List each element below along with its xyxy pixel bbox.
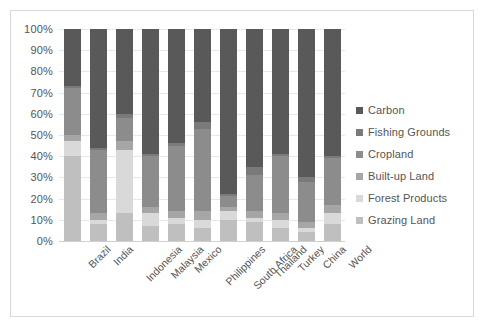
legend-item-label: Grazing Land (368, 214, 435, 226)
bar-segment (246, 175, 263, 211)
bar-segment (246, 222, 263, 241)
legend-swatch-icon (356, 107, 363, 114)
bar-brazil[interactable] (64, 29, 81, 241)
bar-segment (246, 29, 263, 167)
y-axis: 100%90%80%70%60%50%40%30%20%10%0% (11, 29, 57, 241)
legend-item-label: Fishing Grounds (368, 126, 450, 138)
y-axis-tick-label: 0% (37, 235, 53, 247)
bar-segment (324, 224, 341, 241)
bar-thailand[interactable] (246, 29, 263, 241)
bar-segment (142, 226, 159, 241)
bar-segment (142, 156, 159, 207)
bar-segment (116, 150, 133, 214)
bar-philippines[interactable] (194, 29, 211, 241)
bar-segment (64, 141, 81, 156)
bar-segment (272, 156, 289, 213)
y-axis-tick-label: 90% (30, 44, 53, 56)
legend-item-label: Cropland (368, 148, 413, 160)
bar-world[interactable] (324, 29, 341, 241)
bar-segment (168, 146, 185, 212)
bar-segment (64, 29, 81, 86)
bar-segment (246, 167, 263, 175)
bar-south-africa[interactable] (220, 29, 237, 241)
bar-mexico[interactable] (168, 29, 185, 241)
bar-segment (142, 213, 159, 226)
bar-segment (220, 29, 237, 194)
bar-segment (194, 228, 211, 241)
bar-segment (90, 150, 107, 214)
y-axis-tick-label: 50% (30, 129, 53, 141)
legend-item-grazing-land[interactable]: Grazing Land (356, 209, 474, 231)
bar-segment (64, 88, 81, 135)
bar-segment (220, 220, 237, 241)
legend-swatch-icon (356, 173, 363, 180)
legend-item-built-up-land[interactable]: Built-up Land (356, 165, 474, 187)
plot-area (59, 29, 345, 241)
bar-malaysia[interactable] (142, 29, 159, 241)
bar-segment (116, 118, 133, 141)
chart-legend: CarbonFishing GroundsCroplandBuilt-up La… (356, 99, 474, 231)
bar-segment (142, 29, 159, 154)
x-axis-tick-label: India (111, 243, 136, 268)
bar-segment (116, 213, 133, 241)
bar-segment (272, 29, 289, 154)
y-axis-tick-label: 70% (30, 87, 53, 99)
bar-turkey[interactable] (272, 29, 289, 241)
legend-item-forest-products[interactable]: Forest Products (356, 187, 474, 209)
legend-item-fishing-grounds[interactable]: Fishing Grounds (356, 121, 474, 143)
bar-segment (220, 196, 237, 207)
bar-segment (324, 213, 341, 224)
legend-swatch-icon (356, 195, 363, 202)
x-axis-tick-label: Brazil (86, 243, 113, 270)
y-axis-tick-label: 10% (30, 214, 53, 226)
x-axis: BrazilIndiaIndonesiaMalaysiaMexicoPhilip… (59, 243, 349, 313)
bar-segment (168, 29, 185, 143)
legend-swatch-icon (356, 129, 363, 136)
y-axis-tick-label: 100% (24, 23, 53, 35)
bar-segment (90, 224, 107, 241)
legend-swatch-icon (356, 217, 363, 224)
bar-china[interactable] (298, 29, 315, 241)
bar-segment (298, 29, 315, 177)
bar-segment (324, 205, 341, 213)
legend-swatch-icon (356, 151, 363, 158)
legend-item-label: Forest Products (368, 192, 447, 204)
legend-item-label: Built-up Land (368, 170, 434, 182)
y-axis-tick-label: 40% (30, 150, 53, 162)
chart-frame: 100%90%80%70%60%50%40%30%20%10%0% Brazil… (10, 10, 474, 317)
bar-segment (220, 211, 237, 219)
bar-segment (324, 29, 341, 156)
x-axis-tick-label: World (346, 243, 374, 271)
legend-item-carbon[interactable]: Carbon (356, 99, 474, 121)
y-axis-tick-label: 20% (30, 193, 53, 205)
bar-segment (116, 29, 133, 114)
gridline-0 (59, 241, 345, 242)
y-axis-tick-label: 80% (30, 65, 53, 77)
bar-segment (194, 29, 211, 122)
y-axis-tick-label: 60% (30, 108, 53, 120)
bar-segment (272, 220, 289, 228)
legend-item-label: Carbon (368, 104, 405, 116)
y-axis-tick-label: 30% (30, 171, 53, 183)
bar-india[interactable] (90, 29, 107, 241)
bar-segment (194, 129, 211, 212)
legend-item-cropland[interactable]: Cropland (356, 143, 474, 165)
bar-segment (298, 232, 315, 240)
bar-segment (168, 224, 185, 241)
bar-segment (90, 29, 107, 148)
bar-indonesia[interactable] (116, 29, 133, 241)
bar-segment (116, 141, 133, 149)
bar-segment (272, 228, 289, 241)
bar-segment (194, 220, 211, 228)
x-axis-tick-label: China (320, 243, 348, 271)
bar-segment (194, 211, 211, 219)
bar-segment (64, 156, 81, 241)
bar-segment (324, 158, 341, 205)
bar-segment (298, 182, 315, 222)
